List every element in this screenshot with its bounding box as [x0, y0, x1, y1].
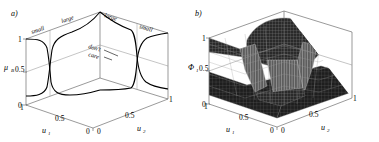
panel-b-vertical-axis-name: Φ: [188, 63, 194, 72]
panel-a-u2-axis-subscript: 2: [143, 129, 146, 134]
mesh-surface: [209, 18, 352, 118]
panel-a-u2-axis-name: u: [137, 124, 141, 133]
panel-a-u1-axis-name: u: [42, 126, 46, 135]
panel-a-u2-tick-one: 1: [169, 95, 173, 104]
panel-b-u1-tick-mid: 0.5: [239, 113, 249, 122]
panel-b-vtick-top: 1: [202, 34, 206, 43]
panel-b-label: b): [195, 9, 202, 18]
panel-a-vtick-top: 1: [18, 35, 22, 44]
panel-b: b) Φ 1 0.5 1 0 0.5 0 1 u 1 0.5 0 1 u 2: [185, 0, 379, 142]
panel-a-plot: a) μ B 0.5 1 0 0.5 0 1 u 1 0.5 0 1 u 2 s…: [0, 0, 190, 142]
panel-a-u1-tick-zero: 0: [86, 127, 90, 136]
panel-b-vtick-mid: 0.5: [199, 64, 209, 73]
panel-a-vertical-axis-subscript: B: [11, 68, 14, 73]
panel-a-u1-tick-one: 1: [20, 103, 24, 112]
panel-b-u1-tick-zero: 0: [270, 126, 274, 135]
panel-b-u1-axis-name: u: [226, 125, 230, 134]
panel-a-label: a): [11, 9, 18, 18]
panel-b-u2-axis-name: u: [321, 123, 325, 132]
curve-large-u2: [100, 12, 168, 89]
panel-a-vtick-mid: 0.5: [15, 65, 25, 74]
panel-b-u2-tick-zero: 0: [281, 126, 285, 135]
annotation-small-left: small: [30, 24, 45, 35]
panel-a-u2-tick-zero: 0: [97, 127, 101, 136]
panel-a-u2-tick-mid: 0.5: [125, 111, 135, 120]
panel-a-u1-axis-subscript: 1: [48, 131, 51, 136]
panel-b-plot: b) Φ 1 0.5 1 0 0.5 0 1 u 1 0.5 0 1 u 2: [185, 0, 379, 142]
panel-b-u1-axis-subscript: 1: [232, 130, 235, 135]
annotation-small-right: small: [139, 22, 154, 33]
panel-b-u1-tick-one: 1: [204, 102, 208, 111]
panel-b-u2-tick-one: 1: [353, 94, 357, 103]
panel-b-u2-tick-mid: 0.5: [309, 110, 319, 119]
figure-container: a) μ B 0.5 1 0 0.5 0 1 u 1 0.5 0 1 u 2 s…: [0, 0, 379, 142]
panel-a-u1-tick-mid: 0.5: [55, 114, 65, 123]
panel-a-vertical-axis-name: μ: [3, 63, 8, 72]
panel-b-u2-axis-subscript: 2: [327, 128, 330, 133]
dont-care-leaders: [104, 50, 118, 60]
surface-saddle: [267, 60, 303, 92]
panel-a: a) μ B 0.5 1 0 0.5 0 1 u 1 0.5 0 1 u 2 s…: [0, 0, 190, 142]
